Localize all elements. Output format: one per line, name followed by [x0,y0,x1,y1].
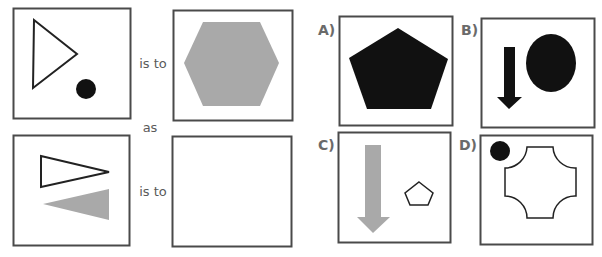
option-d[interactable]: D) [459,136,593,245]
panel-frame [173,137,292,247]
is-to-label-1: is to [139,56,167,71]
panel-frame [339,133,451,243]
premise-panel-1 [14,9,131,119]
option-a-label: A) [318,22,335,38]
option-c[interactable]: C) [318,133,451,243]
gray-hexagon-shape [184,22,279,106]
option-b[interactable]: B) [461,19,595,128]
option-c-label: C) [318,137,335,153]
query-panel-1 [14,136,130,246]
analogy-puzzle: is to as is to A) B) C) D) [0,0,602,257]
option-a[interactable]: A) [318,17,453,126]
is-to-label-2: is to [139,184,167,199]
as-label: as [143,120,158,135]
answer-slot-panel [173,137,292,247]
black-circle-shape [490,141,510,161]
option-d-label: D) [459,137,477,153]
premise-panel-2 [174,11,293,121]
panel-frame [14,9,131,119]
option-b-label: B) [461,22,478,38]
black-circle-shape [76,79,96,99]
black-ellipse-shape [526,34,576,92]
panel-frame [14,136,130,246]
